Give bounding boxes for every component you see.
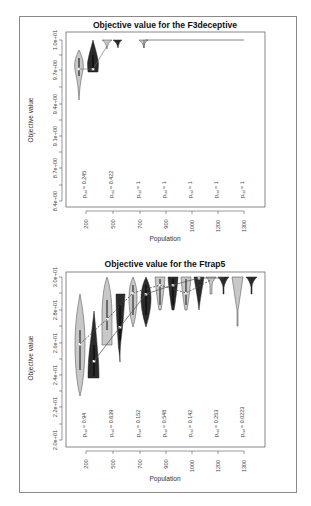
y-axis — [59, 277, 62, 440]
p-value-annotations: pval = 0.245 pval = 0.422 pval = 1 pval … — [81, 171, 246, 198]
p-value-annotations: pval = 0.94 pval = 0.639 pval = 0.152 pv… — [81, 407, 246, 437]
p-value-label: pval = 0.548 — [161, 410, 168, 437]
x-tick-label: 700 — [137, 459, 143, 468]
x-axis-label: Population — [149, 235, 180, 243]
y-tick-label: 9.7e+00 — [52, 60, 58, 80]
chart-title: Objective value for the F3deceptive — [93, 20, 237, 30]
y-tick-labels: 3.0e+01 2.8e+01 2.6e+01 2.4e+01 2.2e+01 … — [52, 267, 58, 450]
p-value-label: pval = 0.152 — [135, 410, 142, 437]
y-tick-label: 8.7e+00 — [52, 158, 58, 178]
x-axis — [86, 451, 244, 454]
y-tick-label: 1.0e+01 — [52, 30, 58, 50]
x-tick-label: 200 — [83, 459, 89, 468]
y-tick-label: 9.4e+00 — [52, 94, 58, 114]
p-value-label: pval = 1 — [239, 181, 246, 198]
x-tick-label: 500 — [110, 219, 116, 228]
p-value-label: pval = 1 — [135, 181, 142, 198]
x-tick-label: 900 — [163, 219, 169, 228]
y-tick-label: 9.1e+00 — [52, 126, 58, 146]
y-tick-label: 2.0e+01 — [52, 430, 58, 450]
x-tick-labels: 200 500 700 900 1000 1200 1300 — [83, 459, 247, 472]
y-tick-labels: 1.0e+01 9.7e+00 9.4e+00 9.1e+00 8.7e+00 … — [52, 30, 58, 211]
y-tick-label: 2.6e+01 — [52, 333, 58, 353]
chart-f3deceptive: Objective value for the F3deceptive 1.0e… — [27, 20, 265, 243]
p-value-label: pval = 1 — [187, 181, 194, 198]
x-tick-label: 1200 — [215, 460, 221, 472]
x-tick-label: 200 — [83, 219, 89, 228]
x-tick-label: 1200 — [215, 220, 221, 232]
y-tick-label: 8.4e+00 — [52, 191, 58, 211]
y-axis — [59, 40, 62, 201]
y-axis-label: Objective value — [27, 335, 35, 380]
y-tick-label: 2.4e+01 — [52, 365, 58, 385]
p-value-label: pval = 0.422 — [108, 171, 115, 198]
x-tick-label: 1000 — [189, 220, 195, 232]
x-tick-label: 700 — [137, 219, 143, 228]
figure-canvas: Objective value for the F3deceptive 1.0e… — [0, 0, 311, 506]
p-value-label: pval = 1 — [161, 181, 168, 198]
p-value-label: pval = 0.639 — [108, 410, 115, 437]
x-tick-label: 1300 — [241, 220, 247, 232]
y-tick-label: 3.0e+01 — [52, 267, 58, 287]
x-tick-label: 500 — [110, 459, 116, 468]
chart-ftrap5: Objective value for the Ftrap5 3.0e+01 2… — [27, 259, 265, 483]
p-value-label: pval = 0.253 — [213, 410, 220, 437]
chart-title: Objective value for the Ftrap5 — [105, 259, 226, 269]
p-value-label: pval = 1 — [213, 181, 220, 198]
y-axis-label: Objective value — [27, 97, 35, 142]
violins — [75, 277, 257, 396]
y-tick-label: 2.8e+01 — [52, 300, 58, 320]
x-tick-label: 900 — [163, 459, 169, 468]
x-axis — [86, 211, 244, 214]
p-value-label: pval = 0.94 — [81, 413, 88, 437]
p-value-label: pval = 0.245 — [81, 171, 88, 198]
x-tick-labels: 200 500 700 900 1000 1200 1300 — [83, 219, 247, 232]
x-axis-label: Population — [149, 475, 180, 483]
y-tick-label: 2.2e+01 — [52, 397, 58, 417]
p-value-label: pval = 0.0223 — [239, 407, 246, 437]
x-tick-label: 1300 — [241, 460, 247, 472]
p-value-label: pval = 0.142 — [187, 410, 194, 437]
x-tick-label: 1000 — [189, 460, 195, 472]
violins — [75, 40, 244, 100]
